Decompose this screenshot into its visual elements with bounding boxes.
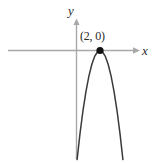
y-axis-label: y bbox=[68, 4, 74, 17]
graph-canvas bbox=[0, 0, 157, 163]
vertex-coordinate-label: (2, 0) bbox=[80, 30, 105, 42]
vertex-point-marker bbox=[96, 47, 103, 54]
graph-figure: y x (2, 0) bbox=[0, 0, 157, 163]
x-axis-label: x bbox=[142, 44, 148, 57]
parabola-curve bbox=[77, 51, 123, 160]
x-axis-arrow-icon bbox=[133, 47, 140, 53]
y-axis-arrow-icon bbox=[73, 19, 79, 26]
